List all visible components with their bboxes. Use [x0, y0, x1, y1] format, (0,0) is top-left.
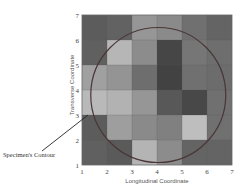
heatmap-cell — [207, 140, 232, 165]
heatmap-cell — [157, 65, 182, 90]
heatmap-cell — [182, 115, 207, 140]
heatmap-cell — [107, 115, 132, 140]
y-tick-label: 6 — [76, 37, 80, 45]
heatmap-cell — [182, 65, 207, 90]
heatmap-cell — [107, 15, 132, 40]
x-tick-label: 3 — [130, 168, 134, 176]
heatmap-cell — [207, 15, 232, 40]
heatmap-cell — [82, 90, 107, 115]
x-tick-label: 6 — [205, 168, 209, 176]
heatmap-cell — [157, 115, 182, 140]
y-axis-ticks: 1234567 — [76, 12, 80, 170]
heatmap-cell — [132, 65, 157, 90]
heatmap-cell — [207, 115, 232, 140]
heatmap-cell — [182, 40, 207, 65]
heatmap-cell — [132, 115, 157, 140]
heatmap-cell — [157, 40, 182, 65]
heatmap-cell — [182, 15, 207, 40]
x-tick-label: 7 — [230, 168, 234, 176]
x-tick-label: 2 — [105, 168, 109, 176]
heatmap-cell — [107, 40, 132, 65]
heatmap-cell — [207, 65, 232, 90]
x-tick-label: 1 — [80, 168, 84, 176]
y-tick-label: 1 — [76, 162, 80, 170]
x-tick-label: 4 — [155, 168, 159, 176]
y-tick-label: 2 — [76, 137, 80, 145]
y-tick-label: 3 — [76, 112, 80, 120]
heatmap-cell — [82, 15, 107, 40]
x-tick-label: 5 — [180, 168, 184, 176]
y-axis-label: Transverse Coordinate — [69, 54, 75, 115]
heatmap-cell — [157, 90, 182, 115]
heatmap-cell — [82, 40, 107, 65]
x-axis-ticks: 1234567 — [80, 168, 234, 176]
heatmap-cell — [107, 90, 132, 115]
heatmap-cell — [182, 90, 207, 115]
heatmap-cell — [132, 90, 157, 115]
y-tick-label: 7 — [76, 12, 80, 20]
y-tick-label: 4 — [76, 87, 80, 95]
heatmap-cell — [107, 65, 132, 90]
y-tick-label: 5 — [76, 62, 80, 70]
heatmap-cell — [82, 140, 107, 165]
heatmap-cell — [82, 65, 107, 90]
heatmap-figure: Specimen's Contour 1234567 1234567 Longi… — [0, 0, 249, 191]
annotation-leader-line — [42, 115, 88, 151]
x-axis-label: Longitudinal Coordinate — [125, 178, 189, 184]
heatmap-cell — [132, 40, 157, 65]
annotation-label: Specimen's Contour — [3, 151, 56, 158]
heatmap-cell — [207, 90, 232, 115]
